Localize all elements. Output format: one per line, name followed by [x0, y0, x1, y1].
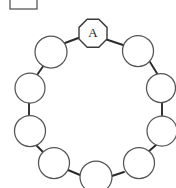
ring-node-n1[interactable]	[123, 36, 154, 67]
ring-node-n4[interactable]	[124, 148, 155, 179]
ring-node-n9[interactable]	[35, 36, 67, 68]
ring-node-n8[interactable]	[15, 73, 45, 103]
ring-node-A-label: A	[88, 25, 98, 40]
partial-label-box	[10, 0, 37, 9]
ring-node-n5[interactable]	[80, 161, 112, 188]
ring-diagram: A	[0, 0, 176, 188]
ring-node-n7[interactable]	[15, 116, 46, 147]
figure-canvas: A	[0, 0, 176, 188]
ring-node-n2[interactable]	[147, 74, 176, 103]
ring-node-n6[interactable]	[39, 148, 70, 179]
ring-node-n3[interactable]	[147, 116, 176, 146]
